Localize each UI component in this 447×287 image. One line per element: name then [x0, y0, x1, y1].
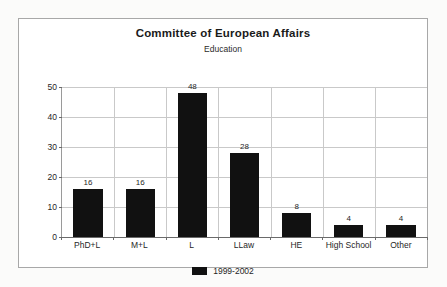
legend-swatch-1999-2002: [192, 267, 207, 275]
bar-slot: 16: [62, 87, 114, 237]
bar: [73, 189, 102, 237]
x-tick-mark: [218, 237, 219, 240]
chart-title: Committee of European Affairs: [19, 27, 427, 39]
bar-slot: 8: [271, 87, 323, 237]
chart-subtitle: Education: [19, 44, 427, 54]
chart-screenshot: Committee of European Affairs Education …: [0, 0, 447, 287]
chart-frame: Committee of European Affairs Education …: [18, 18, 428, 268]
bars-layer: 16164828844: [62, 87, 427, 237]
x-tick-mark: [113, 237, 114, 240]
bar: [282, 213, 311, 237]
plot-area: 01020304050 16164828844: [61, 87, 427, 238]
x-tick-mark: [270, 237, 271, 240]
x-tick-mark: [375, 237, 376, 240]
bar-value-label: 16: [114, 178, 166, 187]
y-tick-label-0: 0: [52, 232, 57, 242]
bar: [126, 189, 155, 237]
bar-slot: 16: [114, 87, 166, 237]
bar-value-label: 8: [271, 202, 323, 211]
bar-value-label: 28: [218, 142, 270, 151]
y-tick-label-30: 30: [48, 142, 57, 152]
y-tick-label-20: 20: [48, 172, 57, 182]
x-tick-mark: [427, 237, 428, 240]
bar: [334, 225, 363, 237]
x-tick-mark: [61, 237, 62, 240]
bar: [230, 153, 259, 237]
bar-slot: 4: [323, 87, 375, 237]
bar-value-label: 4: [375, 214, 427, 223]
x-tick-mark: [166, 237, 167, 240]
bar-slot: 28: [218, 87, 270, 237]
legend-label-1999-2002: 1999-2002: [213, 266, 254, 276]
x-tick-label: PhD+L: [61, 240, 113, 250]
y-tick-label-40: 40: [48, 112, 57, 122]
x-tick-label: L: [166, 240, 218, 250]
x-tick-label: Other: [375, 240, 427, 250]
bar-value-label: 4: [323, 214, 375, 223]
bar-slot: 48: [166, 87, 218, 237]
bar-value-label: 16: [62, 178, 114, 187]
bar-value-label: 48: [166, 82, 218, 91]
x-tick-mark: [322, 237, 323, 240]
bar: [386, 225, 415, 237]
chart-legend: 1999-2002: [19, 266, 427, 276]
y-tick-label-10: 10: [48, 202, 57, 212]
x-tick-label: M+L: [113, 240, 165, 250]
x-axis: PhD+LM+LLLLawHEHigh SchoolOther: [61, 240, 427, 256]
bar: [178, 93, 207, 237]
y-tick-label-50: 50: [48, 82, 57, 92]
x-tick-label: LLaw: [218, 240, 270, 250]
x-tick-label: HE: [270, 240, 322, 250]
bar-slot: 4: [375, 87, 427, 237]
x-tick-label: High School: [322, 240, 374, 250]
